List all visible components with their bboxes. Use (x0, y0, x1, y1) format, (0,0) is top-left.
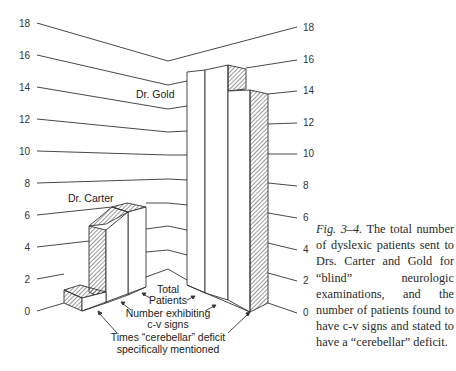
left-tick-14: 14 (19, 82, 31, 93)
right-tick-16: 16 (303, 54, 315, 65)
right-tick-10: 10 (303, 148, 315, 159)
left-tick-12: 12 (19, 114, 31, 125)
left-tick-18: 18 (19, 18, 31, 29)
gridline-8-left (37, 179, 187, 183)
right-tick-6: 6 (303, 212, 309, 223)
right-tick-2: 2 (303, 275, 309, 286)
right-tick-18: 18 (303, 22, 315, 33)
left-tick-6: 6 (24, 210, 30, 221)
gridline-6-left (37, 207, 112, 215)
gridline-10-left (37, 151, 187, 155)
gridline-4-mid (146, 226, 187, 230)
gold-cereb-face (228, 90, 250, 312)
gridline-18 (37, 23, 297, 61)
label-total-2: Patients (149, 294, 187, 306)
left-tick-4: 4 (24, 242, 30, 253)
left-tick-10: 10 (19, 146, 31, 157)
gridline-4-left (37, 241, 89, 247)
gold-bars (187, 65, 268, 312)
gridline-14-right (268, 91, 297, 94)
label-dr-carter: Dr. Carter (68, 192, 114, 204)
carter-cv-face (106, 212, 128, 303)
label-cereb-2: specifically mentioned (117, 343, 220, 355)
gridline-16-right (246, 60, 297, 68)
gold-total-face (187, 70, 205, 293)
gridline-12-right (268, 123, 297, 124)
carter-bars (64, 203, 146, 311)
right-tick-0: 0 (303, 307, 309, 318)
right-tick-12: 12 (303, 117, 315, 128)
gridline-2-left (37, 274, 64, 279)
gold-cv-face (205, 65, 228, 300)
left-tick-0: 0 (24, 306, 30, 317)
label-dr-gold: Dr. Gold (136, 88, 175, 100)
right-axis: 18 16 14 12 10 8 6 4 2 0 (303, 22, 315, 318)
gridline-2-mid (146, 250, 187, 255)
gridline-4-right (268, 243, 297, 250)
left-tick-8: 8 (24, 178, 30, 189)
gold-cv-step (228, 65, 246, 91)
right-tick-4: 4 (303, 244, 309, 255)
label-cv-2: c-v signs (147, 318, 188, 330)
gridline-16-left (37, 55, 187, 85)
left-tick-2: 2 (24, 274, 30, 285)
figure-caption: Fig. 3–4. The total number of dyslexic p… (316, 221, 454, 351)
carter-total-face (128, 207, 146, 295)
right-tick-8: 8 (303, 180, 309, 191)
gridline-6-mid (146, 203, 187, 205)
caption-text: The total number of dyslexic patients se… (316, 222, 454, 349)
gridline-0-left (37, 303, 64, 311)
gold-cereb-side (250, 90, 268, 312)
gridline-8-right (268, 183, 297, 186)
gridline-0-right (268, 303, 297, 313)
label-cereb-1: Times “cerebellar” deficit (111, 331, 226, 343)
gridline-2-right (268, 273, 297, 281)
gridline-6-right (268, 213, 297, 218)
left-axis: 18 16 14 12 10 8 6 4 2 0 (19, 18, 31, 317)
left-tick-16: 16 (19, 50, 31, 61)
right-tick-14: 14 (303, 85, 315, 96)
caption-fig-number: Fig. 3–4. (316, 222, 362, 236)
gridline-0-mid (146, 269, 187, 280)
gridline-12-left (37, 119, 187, 132)
